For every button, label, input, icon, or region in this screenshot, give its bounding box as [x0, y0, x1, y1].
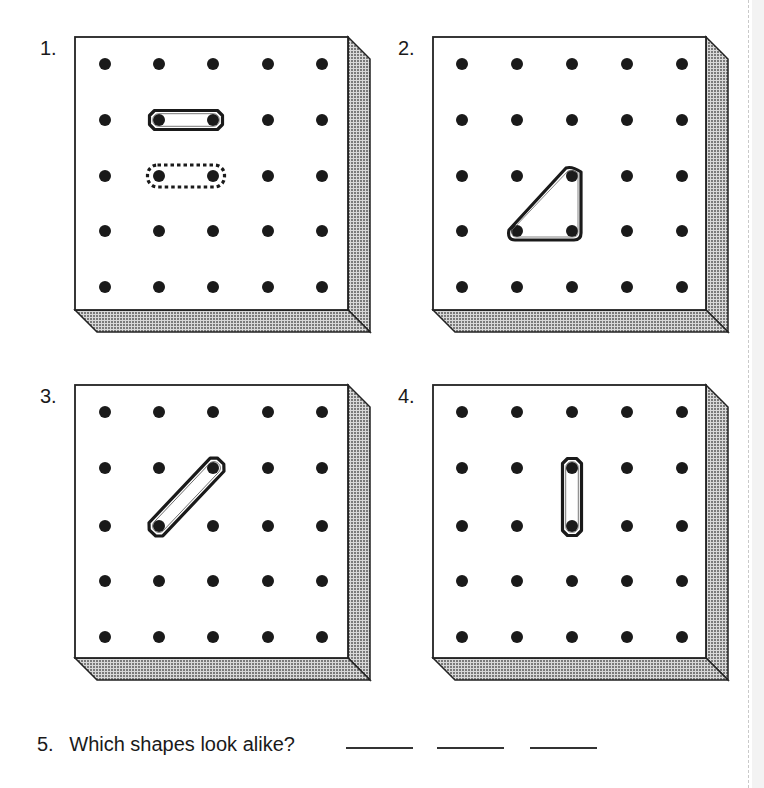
peg: [621, 225, 633, 237]
peg: [99, 281, 111, 293]
peg: [456, 462, 468, 474]
geoboards: [0, 0, 764, 788]
peg: [99, 520, 111, 532]
peg: [566, 520, 578, 532]
peg: [262, 575, 274, 587]
board-bottom-edge: [75, 310, 370, 332]
peg: [207, 406, 219, 418]
peg: [262, 462, 274, 474]
peg: [621, 520, 633, 532]
peg: [621, 462, 633, 474]
board-side-edge: [706, 37, 728, 332]
peg: [456, 406, 468, 418]
peg: [99, 575, 111, 587]
peg: [566, 631, 578, 643]
peg: [153, 58, 165, 70]
peg: [316, 631, 328, 643]
peg: [99, 631, 111, 643]
peg: [153, 170, 165, 182]
peg: [621, 114, 633, 126]
peg: [511, 114, 523, 126]
peg: [676, 170, 688, 182]
peg: [207, 225, 219, 237]
peg: [456, 281, 468, 293]
peg: [99, 114, 111, 126]
peg: [262, 225, 274, 237]
peg: [262, 114, 274, 126]
peg: [99, 406, 111, 418]
question-5-text: Which shapes look alike?: [69, 733, 295, 755]
answer-blank-1[interactable]: [346, 747, 413, 749]
peg: [316, 114, 328, 126]
peg: [511, 631, 523, 643]
peg: [153, 114, 165, 126]
peg: [316, 462, 328, 474]
peg: [99, 58, 111, 70]
peg: [99, 462, 111, 474]
peg: [676, 281, 688, 293]
peg: [207, 114, 219, 126]
answer-blank-2[interactable]: [437, 747, 504, 749]
peg: [456, 114, 468, 126]
peg: [676, 114, 688, 126]
peg: [566, 225, 578, 237]
peg: [207, 58, 219, 70]
peg: [456, 225, 468, 237]
peg: [566, 575, 578, 587]
peg: [99, 170, 111, 182]
peg: [566, 281, 578, 293]
board-side-edge: [348, 37, 370, 332]
peg: [456, 631, 468, 643]
peg: [207, 520, 219, 532]
peg: [676, 406, 688, 418]
peg: [621, 406, 633, 418]
question-5-number: 5.: [37, 733, 54, 755]
board-bottom-edge: [433, 310, 728, 332]
geoboard-1: [75, 37, 370, 332]
board-bottom-edge: [75, 658, 370, 680]
geoboard-2: [433, 37, 728, 332]
peg: [621, 58, 633, 70]
peg: [621, 170, 633, 182]
peg: [262, 58, 274, 70]
peg: [511, 575, 523, 587]
peg: [262, 170, 274, 182]
peg: [511, 281, 523, 293]
peg: [676, 575, 688, 587]
peg: [207, 631, 219, 643]
peg: [207, 170, 219, 182]
board-side-edge: [348, 385, 370, 680]
peg: [153, 406, 165, 418]
peg: [316, 58, 328, 70]
peg: [676, 631, 688, 643]
geoboard-3: [75, 385, 370, 680]
peg: [153, 281, 165, 293]
peg: [207, 281, 219, 293]
peg: [262, 520, 274, 532]
peg: [566, 114, 578, 126]
answer-blank-3[interactable]: [530, 747, 597, 749]
peg: [566, 462, 578, 474]
peg: [621, 631, 633, 643]
peg: [316, 520, 328, 532]
board-side-edge: [706, 385, 728, 680]
peg: [207, 575, 219, 587]
peg: [511, 462, 523, 474]
question-5: 5. Which shapes look alike?: [37, 733, 295, 755]
peg: [316, 575, 328, 587]
peg: [676, 520, 688, 532]
peg: [511, 406, 523, 418]
peg: [153, 462, 165, 474]
peg: [153, 225, 165, 237]
peg: [316, 225, 328, 237]
peg: [316, 170, 328, 182]
peg: [153, 631, 165, 643]
peg: [566, 406, 578, 418]
geoboard-4: [433, 385, 728, 680]
peg: [262, 406, 274, 418]
peg: [676, 462, 688, 474]
peg: [621, 575, 633, 587]
peg: [316, 406, 328, 418]
peg: [511, 170, 523, 182]
peg: [262, 281, 274, 293]
